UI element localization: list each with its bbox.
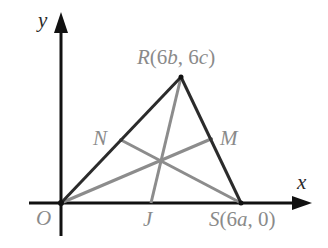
vertex-r-close: ) [208,45,215,69]
coordinate-diagram: y x O R(6b, 6c) S(6a, 0) N M J [0,0,328,248]
vertex-r-b: b [167,45,178,69]
y-axis-label: y [38,10,47,31]
vertex-r-label: R(6b, 6c) [137,47,215,68]
midpoint-m-label: M [220,128,238,149]
point-o [58,200,64,206]
midpoint-n-label: N [93,128,107,149]
median-r-j [151,77,181,203]
vertex-s-name: S [209,207,220,231]
vertex-r-text: (6 [150,45,168,69]
y-axis-arrow-icon [54,12,68,33]
origin-label: O [36,208,51,229]
x-axis-arrow-icon [292,196,312,210]
midpoint-j-label: J [143,209,152,230]
vertex-r-name: R [137,45,150,69]
point-n [119,138,123,142]
point-s [239,201,244,206]
point-m [209,137,213,141]
vertex-s-close: , 0) [248,207,276,231]
vertex-r-c: c [199,45,208,69]
vertex-s-label: S(6a, 0) [209,209,276,230]
vertex-s-text: (6 [220,207,238,231]
vertex-s-a: a [237,207,248,231]
vertex-r-text2: , 6 [178,45,199,69]
point-r [179,75,184,80]
x-axis-label: x [297,172,306,193]
